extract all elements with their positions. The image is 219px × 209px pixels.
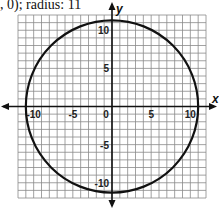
coordinate-plane: xy-10-50510105-5-10 (0, 0, 219, 209)
x-tick-label: 10 (185, 109, 197, 120)
y-tick-label: 5 (103, 63, 109, 74)
y-tick-label: -10 (95, 178, 110, 189)
x-tick-label: -10 (26, 109, 41, 120)
x-axis-label: x (211, 92, 219, 106)
y-axis-arrow-down-icon (109, 200, 116, 208)
y-axis-arrow-up-icon (109, 2, 116, 10)
x-tick-label: 5 (148, 109, 154, 120)
y-tick-label: -5 (100, 140, 109, 151)
x-axis-arrow-left-icon (1, 103, 9, 110)
y-tick-label: 10 (98, 25, 110, 36)
y-axis-label: y (115, 2, 124, 16)
x-tick-label: 0 (103, 109, 109, 120)
x-tick-label: -5 (68, 109, 77, 120)
